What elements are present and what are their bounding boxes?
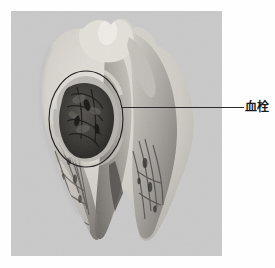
- leader-line: [122, 107, 244, 108]
- thrombus-label: 血栓: [245, 100, 269, 114]
- page-root: 血栓: [0, 0, 275, 268]
- specimen-image: [11, 11, 222, 256]
- pathology-photograph: [11, 11, 222, 256]
